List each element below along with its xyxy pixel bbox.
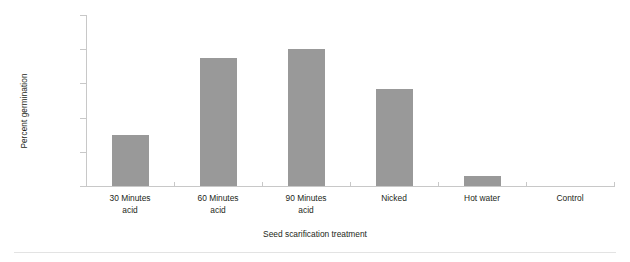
- x-category-label: Control: [526, 193, 614, 205]
- bar: [112, 135, 149, 186]
- x-category-label-line1: Nicked: [381, 193, 407, 203]
- x-category-label-line1: Control: [557, 193, 584, 203]
- y-axis-title: Percent germination: [17, 16, 33, 206]
- x-category-label-line2: acid: [174, 205, 262, 217]
- x-tick-mark: [350, 182, 351, 187]
- x-tick-mark: [174, 182, 175, 187]
- bar: [376, 89, 413, 186]
- x-tick-mark: [438, 182, 439, 187]
- x-tick-mark: [262, 182, 263, 187]
- x-category-label-line2: acid: [86, 205, 174, 217]
- bar: [288, 49, 325, 186]
- x-axis-title: Seed scarification treatment: [0, 229, 630, 239]
- x-category-label-line1: 60 Minutes: [198, 193, 239, 203]
- bar: [464, 176, 501, 186]
- x-tick-mark: [614, 182, 615, 187]
- plot-area: [86, 15, 614, 186]
- x-category-label: 90 Minutesacid: [262, 193, 350, 216]
- x-category-label-line1: Hot water: [464, 193, 500, 203]
- bar: [200, 58, 237, 186]
- footer-divider: [14, 252, 616, 253]
- x-category-label-line2: acid: [262, 205, 350, 217]
- x-category-label-line1: 90 Minutes: [286, 193, 327, 203]
- chart-figure: Percent germination 020406080100 30 Minu…: [0, 0, 630, 262]
- x-category-label: 30 Minutesacid: [86, 193, 174, 216]
- x-tick-mark: [526, 182, 527, 187]
- x-tick-mark: [86, 182, 87, 187]
- x-category-label-line1: 30 Minutes: [110, 193, 151, 203]
- x-category-label: 60 Minutesacid: [174, 193, 262, 216]
- x-category-label: Nicked: [350, 193, 438, 205]
- x-category-label: Hot water: [438, 193, 526, 205]
